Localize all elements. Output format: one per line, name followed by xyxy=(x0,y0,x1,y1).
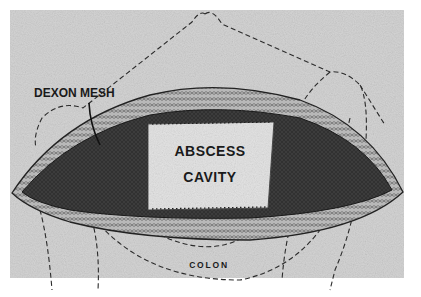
label-cavity: CAVITY xyxy=(183,169,236,185)
label-dexon-mesh: DEXON MESH xyxy=(34,86,115,100)
label-abscess: ABSCESS xyxy=(174,143,245,159)
abscess-cavity xyxy=(148,122,274,210)
medical-illustration: DEXON MESH ABSCESS CAVITY COLON xyxy=(0,0,421,297)
label-colon: COLON xyxy=(189,260,229,270)
